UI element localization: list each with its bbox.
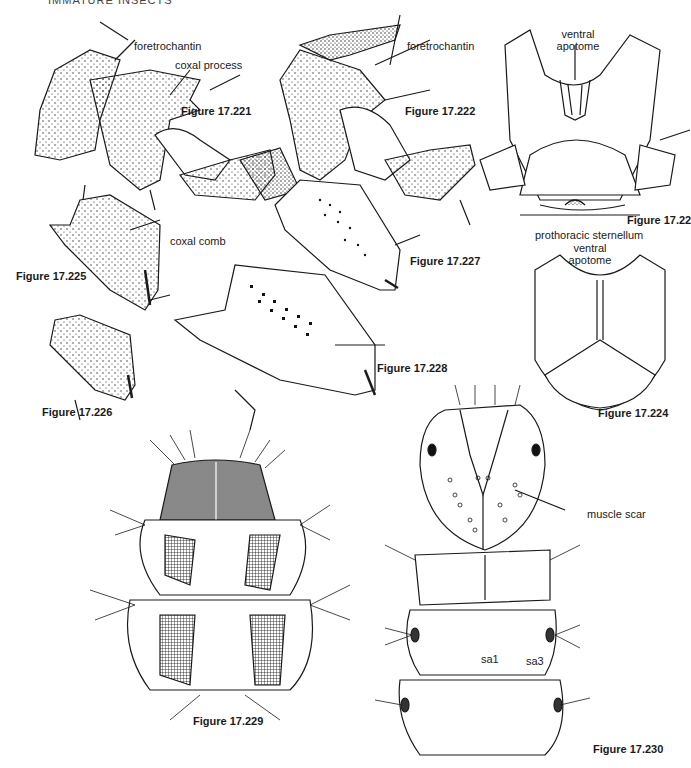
caption-figure-17-224: Figure 17.224 — [598, 407, 668, 419]
label-foretrochantin-222: foretrochantin — [407, 40, 474, 52]
label-sa1: sa1 — [481, 653, 499, 665]
figure-17-229-drawing — [90, 430, 350, 720]
figure-17-223-drawing — [480, 30, 690, 215]
figure-17-221-drawing — [35, 40, 300, 210]
figure-17-228-drawing — [175, 265, 385, 430]
label-muscle-scar: muscle scar — [587, 508, 646, 520]
caption-figure-17-230: Figure 17.230 — [593, 743, 663, 755]
caption-figure-17-221: Figure 17.221 — [181, 105, 251, 117]
figure-plate — [0, 0, 691, 768]
figure-17-226-drawing — [50, 315, 135, 420]
label-ventral-apotome-224-line2: apotome — [560, 254, 620, 266]
caption-figure-17-228: Figure 17.228 — [377, 362, 447, 374]
label-ventral-apotome-223-line2: apotome — [548, 40, 608, 52]
figure-17-225-drawing — [50, 185, 170, 310]
caption-figure-17-223: Figure 17.22 — [627, 214, 691, 226]
caption-figure-17-229: Figure 17.229 — [193, 715, 263, 727]
label-sa3: sa3 — [526, 655, 544, 667]
caption-figure-17-226: Figure 17.226 — [42, 406, 112, 418]
label-prothoracic-sternellum: prothoracic sternellum — [535, 229, 643, 241]
caption-figure-17-227: Figure 17.227 — [410, 255, 480, 267]
label-foretrochantin-221: foretrochantin — [134, 40, 201, 52]
figure-17-224-drawing — [535, 255, 665, 410]
label-coxal-comb: coxal comb — [170, 235, 226, 247]
caption-figure-17-222: Figure 17.222 — [405, 105, 475, 117]
figure-17-230-drawing — [375, 385, 590, 755]
caption-figure-17-225: Figure 17.225 — [16, 270, 86, 282]
leader-line — [100, 22, 128, 40]
label-ventral-apotome-224-line1: ventral — [560, 242, 620, 254]
label-coxal-process: coxal process — [175, 59, 242, 71]
label-ventral-apotome-223-line1: ventral — [548, 28, 608, 40]
